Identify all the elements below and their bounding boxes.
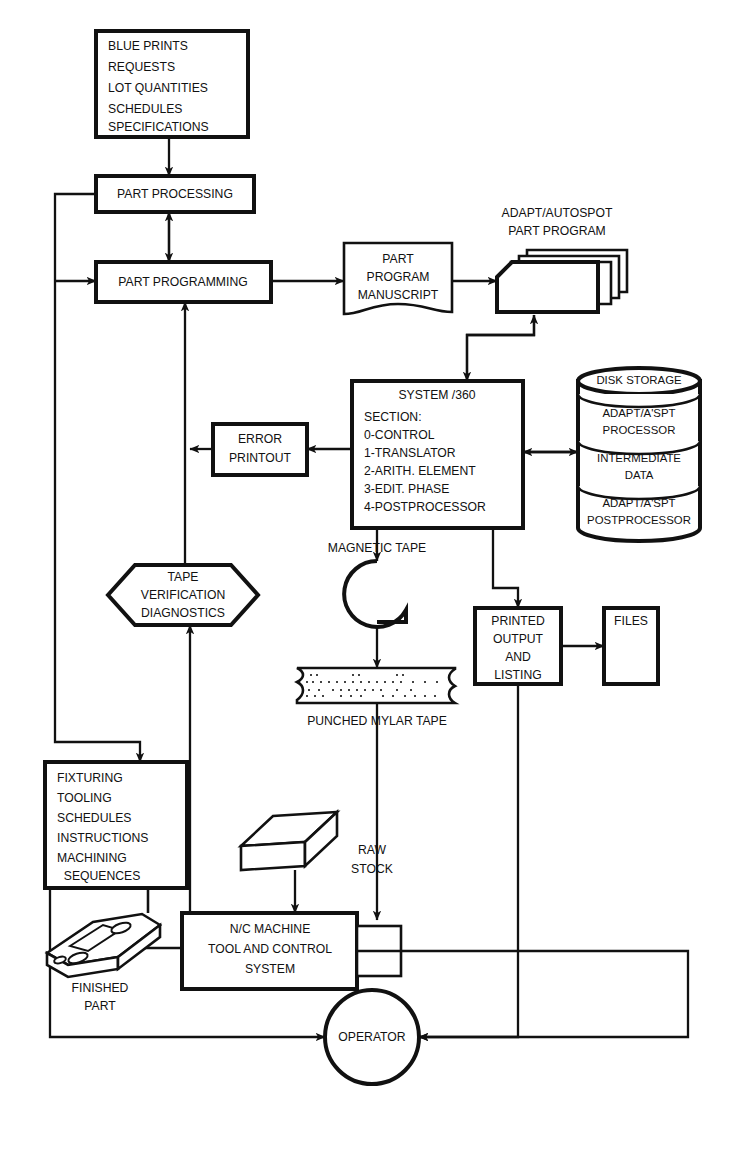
raw-stock-caption-0: RAW: [358, 843, 386, 857]
nc-machine-box: N/C MACHINE TOOL AND CONTROL SYSTEM: [182, 913, 357, 989]
printed-output-line-0: PRINTED: [491, 614, 545, 628]
printed-output-box: PRINTED OUTPUT AND LISTING: [475, 608, 561, 684]
finished-part-caption-1: PART: [84, 999, 116, 1013]
disk-section-0-line-1: PROCESSOR: [603, 424, 676, 436]
fixturing-line-0: FIXTURING: [57, 771, 123, 785]
punched-tape-caption: PUNCHED MYLAR TAPE: [307, 714, 447, 728]
inputs-box: BLUE PRINTS REQUESTS LOT QUANTITIES SCHE…: [96, 31, 248, 137]
fixturing-line-2: SCHEDULES: [57, 811, 132, 825]
system360-line-1: 0-CONTROL: [364, 428, 435, 442]
part-processing-label: PART PROCESSING: [117, 187, 233, 201]
part-processing-box: PART PROCESSING: [96, 176, 254, 212]
punched-tape: PUNCHED MYLAR TAPE: [297, 668, 455, 728]
nc-machine-line-1: TOOL AND CONTROL: [208, 942, 332, 956]
printed-output-line-2: AND: [505, 650, 531, 664]
manuscript-line-1: PROGRAM: [367, 270, 430, 284]
fixturing-box: FIXTURING TOOLING SCHEDULES INSTRUCTIONS…: [45, 762, 187, 888]
connector-system360-to-printedoutput: [493, 528, 518, 608]
connector-carddeck-to-system360: [467, 315, 534, 381]
disk-section-2-line-1: POSTPROCESSOR: [587, 514, 691, 526]
operator-circle: OPERATOR: [325, 990, 419, 1084]
system360-line-2: 1-TRANSLATOR: [364, 446, 456, 460]
card-deck: ADAPT/AUTOSPOT PART PROGRAM: [497, 206, 627, 312]
system360-line-4: 3-EDIT. PHASE: [364, 482, 449, 496]
carddeck-caption-1: PART PROGRAM: [508, 224, 606, 238]
fixturing-line-4: MACHINING: [57, 851, 127, 865]
error-printout-line-1: PRINTOUT: [229, 451, 292, 465]
operator-label: OPERATOR: [338, 1030, 405, 1044]
part-programming-label: PART PROGRAMMING: [118, 275, 247, 289]
inputs-line-3: SCHEDULES: [108, 102, 183, 116]
inputs-line-2: LOT QUANTITIES: [108, 81, 208, 95]
system360-line-5: 4-POSTPROCESSOR: [364, 500, 486, 514]
connector-system360-to-carddeck: [467, 315, 534, 381]
magnetic-tape: MAGNETIC TAPE: [328, 541, 426, 627]
manuscript-line-2: MANUSCRIPT: [358, 288, 439, 302]
manuscript-document: PART PROGRAM MANUSCRIPT: [344, 243, 452, 314]
printed-output-line-3: LISTING: [494, 668, 541, 682]
finished-part: FINISHED PART: [47, 914, 160, 1013]
nc-machine-line-0: N/C MACHINE: [230, 922, 311, 936]
magnetic-tape-caption: MAGNETIC TAPE: [328, 541, 426, 555]
fixturing-line-1: TOOLING: [57, 791, 112, 805]
tape-verification-line-2: DIAGNOSTICS: [141, 606, 225, 620]
disk-storage: DISK STORAGE ADAPT/A'SPT PROCESSOR INTER…: [578, 368, 700, 541]
raw-stock-caption-1: STOCK: [351, 862, 393, 876]
inputs-line-1: REQUESTS: [108, 60, 175, 74]
finished-part-caption-0: FINISHED: [72, 981, 129, 995]
error-printout-line-0: ERROR: [238, 432, 282, 446]
nc-system-flowchart: BLUE PRINTS REQUESTS LOT QUANTITIES SCHE…: [0, 0, 737, 1152]
tape-verification-line-1: VERIFICATION: [141, 588, 225, 602]
fixturing-line-3: INSTRUCTIONS: [57, 831, 148, 845]
inputs-line-4: SPECIFICATIONS: [108, 120, 209, 134]
raw-stock: RAW STOCK: [241, 812, 393, 876]
disk-section-1-line-0: INTERMEDIATE: [597, 452, 681, 464]
error-printout-box: ERROR PRINTOUT: [213, 424, 307, 475]
manuscript-line-0: PART: [382, 252, 414, 266]
inputs-line-0: BLUE PRINTS: [108, 39, 188, 53]
fixturing-line-5: SEQUENCES: [57, 869, 140, 883]
system360-box: SYSTEM /360 SECTION: 0-CONTROL 1-TRANSLA…: [352, 381, 523, 528]
disk-section-0-line-0: ADAPT/A'SPT: [602, 407, 675, 419]
printed-output-line-1: OUTPUT: [493, 632, 544, 646]
tape-verification-hexagon: TAPE VERIFICATION DIAGNOSTICS: [108, 565, 258, 625]
files-box: FILES: [604, 608, 658, 684]
files-label: FILES: [614, 614, 648, 628]
connector-printedoutput-to-operator: [419, 684, 518, 1037]
system360-line-0: SECTION:: [364, 410, 422, 424]
nc-machine-line-2: SYSTEM: [245, 962, 295, 976]
system360-title: SYSTEM /360: [398, 388, 475, 402]
disk-section-1-line-1: DATA: [625, 469, 654, 481]
part-programming-box: PART PROGRAMMING: [96, 262, 271, 302]
disk-storage-header: DISK STORAGE: [596, 374, 682, 386]
disk-section-2-line-0: ADAPT/A'SPT: [602, 497, 675, 509]
tape-verification-line-0: TAPE: [168, 570, 199, 584]
carddeck-caption-0: ADAPT/AUTOSPOT: [502, 206, 613, 220]
system360-line-3: 2-ARITH. ELEMENT: [364, 464, 476, 478]
